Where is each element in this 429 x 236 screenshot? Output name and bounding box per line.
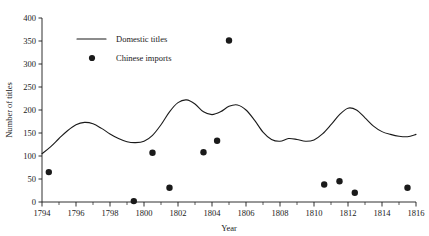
chart-figure: 050100150200250300350400 179417961798180…	[0, 0, 429, 236]
y-tick-label: 300	[23, 59, 36, 69]
x-tick-label: 1796	[68, 208, 85, 218]
y-tick-label: 350	[23, 36, 36, 46]
legend-label-domestic-titles: Domestic titles	[116, 34, 167, 44]
series-line-domestic-titles	[42, 100, 416, 154]
x-tick-label: 1808	[272, 208, 289, 218]
y-tick-label: 400	[23, 13, 36, 23]
legend-dot-swatch	[89, 55, 95, 61]
y-axis-ticks	[39, 18, 43, 202]
data-point-chinese-import	[352, 190, 358, 196]
chart-canvas: 050100150200250300350400 179417961798180…	[0, 0, 429, 236]
y-axis-title: Number of titles	[4, 82, 14, 138]
y-tick-label: 200	[23, 105, 36, 115]
data-point-chinese-import	[214, 138, 220, 144]
x-tick-label: 1812	[340, 208, 357, 218]
x-tick-label: 1814	[374, 208, 392, 218]
data-point-chinese-import	[321, 181, 327, 187]
y-tick-label: 150	[23, 128, 36, 138]
legend: Domestic titles Chinese imports	[77, 34, 171, 63]
y-tick-label: 250	[23, 82, 36, 92]
x-tick-label: 1800	[136, 208, 153, 218]
x-axis-tick-labels: 1794179617981800180218041806180818101812…	[34, 208, 425, 218]
data-point-chinese-import	[46, 169, 52, 175]
legend-label-chinese-imports: Chinese imports	[116, 53, 171, 63]
x-tick-label: 1806	[238, 208, 255, 218]
data-point-chinese-import	[226, 37, 232, 43]
data-point-chinese-import	[404, 185, 410, 191]
y-tick-label: 100	[23, 151, 36, 161]
x-tick-label: 1794	[34, 208, 52, 218]
x-tick-label: 1816	[408, 208, 425, 218]
data-point-chinese-import	[149, 150, 155, 156]
series-points-chinese-imports	[46, 37, 411, 204]
y-tick-label: 50	[28, 174, 37, 184]
x-tick-label: 1810	[306, 208, 323, 218]
y-tick-label: 0	[32, 197, 36, 207]
data-point-chinese-import	[200, 149, 206, 155]
y-axis-tick-labels: 050100150200250300350400	[23, 13, 36, 207]
x-axis-title: Year	[221, 223, 237, 233]
x-tick-label: 1804	[204, 208, 222, 218]
x-tick-label: 1798	[102, 208, 119, 218]
data-point-chinese-import	[131, 198, 137, 204]
x-tick-label: 1802	[170, 208, 187, 218]
data-point-chinese-import	[166, 185, 172, 191]
data-point-chinese-import	[336, 178, 342, 184]
axes-group	[42, 18, 416, 202]
